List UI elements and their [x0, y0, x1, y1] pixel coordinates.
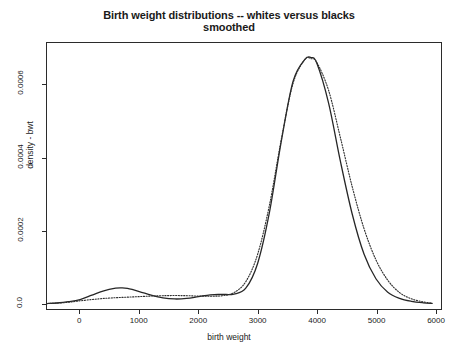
density-curve-whites [47, 57, 432, 303]
y-tick-label: 0.0004 [2, 152, 38, 161]
figure-container: Birth weight distributions -- whites ver… [0, 0, 458, 354]
x-tick-mark [377, 310, 378, 314]
x-axis-label: birth weight [0, 332, 458, 342]
plot-area [46, 42, 442, 310]
x-tick-label: 1000 [119, 316, 159, 325]
x-tick-mark [436, 310, 437, 314]
x-tick-mark [139, 310, 140, 314]
x-tick-label: 0 [59, 316, 99, 325]
x-tick-label: 4000 [297, 316, 337, 325]
x-tick-label: 2000 [178, 316, 218, 325]
chart-title-line-2: smoothed [0, 21, 458, 33]
y-tick-label: 0.0 [2, 298, 38, 307]
x-tick-mark [317, 310, 318, 314]
chart-title-line-1: Birth weight distributions -- whites ver… [0, 9, 458, 21]
density-curves [47, 43, 441, 309]
x-tick-mark [79, 310, 80, 314]
y-tick-label: 0.0002 [2, 225, 38, 234]
density-curve-blacks [47, 57, 432, 304]
chart-title: Birth weight distributions -- whites ver… [0, 9, 458, 33]
x-tick-mark [198, 310, 199, 314]
x-tick-label: 6000 [416, 316, 456, 325]
x-tick-label: 5000 [357, 316, 397, 325]
x-tick-label: 3000 [238, 316, 278, 325]
x-tick-mark [258, 310, 259, 314]
y-tick-label: 0.0006 [2, 78, 38, 87]
